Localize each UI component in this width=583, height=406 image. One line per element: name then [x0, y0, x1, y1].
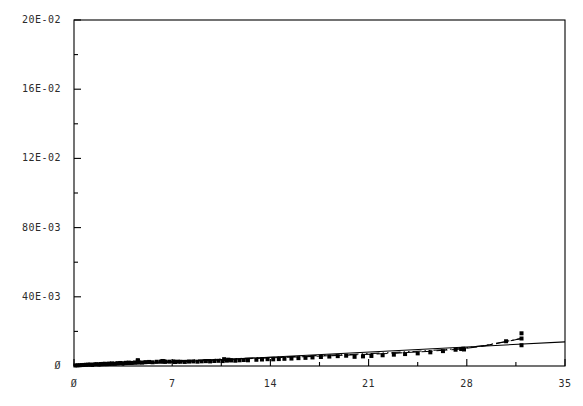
data-point-marker — [462, 347, 466, 351]
y-tick-label: 40E-03 — [0, 291, 61, 302]
data-point-marker — [140, 361, 144, 365]
data-point-marker — [212, 359, 216, 363]
data-point-marker — [226, 358, 230, 362]
data-point-marker — [504, 339, 508, 343]
data-point-marker — [233, 359, 237, 363]
data-point-marker — [136, 359, 140, 363]
chart-canvas — [0, 0, 583, 406]
data-point-marker — [327, 355, 331, 359]
x-tick-label: Ø — [49, 378, 99, 389]
y-tick-label: 16E-02 — [0, 83, 61, 94]
data-point-marker — [392, 353, 396, 357]
data-point-marker — [520, 336, 524, 340]
data-point-marker — [162, 359, 166, 363]
y-tick-label: 80E-03 — [0, 222, 61, 233]
x-tick-label: 7 — [147, 378, 197, 389]
data-point-marker — [246, 358, 250, 362]
data-point-marker — [441, 349, 445, 353]
data-point-marker — [179, 360, 183, 364]
data-point-marker — [336, 354, 340, 358]
data-point-marker — [319, 355, 323, 359]
data-point-marker — [303, 356, 307, 360]
x-tick-label: 28 — [442, 378, 492, 389]
data-point-marker — [271, 357, 275, 361]
data-point-marker — [381, 353, 385, 357]
data-point-marker — [277, 357, 281, 361]
data-point-marker — [353, 355, 357, 359]
data-point-marker — [130, 361, 134, 365]
data-point-marker — [195, 360, 199, 364]
data-point-marker — [454, 348, 458, 352]
data-point-marker — [216, 359, 220, 363]
y-tick-label: 20E-02 — [0, 14, 61, 25]
data-point-marker — [183, 360, 187, 364]
data-point-marker — [260, 358, 264, 362]
data-point-marker — [242, 358, 246, 362]
chart-figure: Ø71421283520E-0216E-0212E-0280E-0340E-03… — [0, 0, 583, 406]
data-point-marker — [208, 359, 212, 363]
x-tick-label: 21 — [344, 378, 394, 389]
data-point-marker — [200, 359, 204, 363]
data-point-marker — [289, 357, 293, 361]
data-point-marker — [282, 357, 286, 361]
data-point-marker — [369, 354, 373, 358]
plot-frame — [74, 20, 565, 366]
data-point-marker — [191, 359, 195, 363]
data-point-marker — [520, 331, 524, 335]
data-point-marker — [144, 360, 148, 364]
data-point-marker — [296, 356, 300, 360]
data-point-marker — [187, 360, 191, 364]
data-point-marker — [416, 351, 420, 355]
y-tick-label: 12E-02 — [0, 152, 61, 163]
data-point-marker — [222, 357, 226, 361]
y-tick-label: Ø — [0, 360, 61, 371]
data-point-marker — [254, 358, 258, 362]
data-point-marker — [155, 360, 159, 364]
data-point-marker — [520, 343, 524, 347]
data-point-marker — [344, 354, 348, 358]
data-point-marker — [167, 360, 171, 364]
data-point-marker — [361, 354, 365, 358]
data-point-marker — [266, 357, 270, 361]
x-tick-label: 35 — [540, 378, 583, 389]
data-point-marker — [238, 358, 242, 362]
scatter-points-data-points — [73, 331, 523, 367]
data-point-marker — [147, 360, 151, 364]
data-point-marker — [151, 360, 155, 364]
data-point-marker — [204, 359, 208, 363]
data-point-marker — [173, 360, 177, 364]
x-tick-label: 14 — [245, 378, 295, 389]
data-point-marker — [310, 355, 314, 359]
data-point-marker — [403, 352, 407, 356]
data-point-marker — [428, 350, 432, 354]
